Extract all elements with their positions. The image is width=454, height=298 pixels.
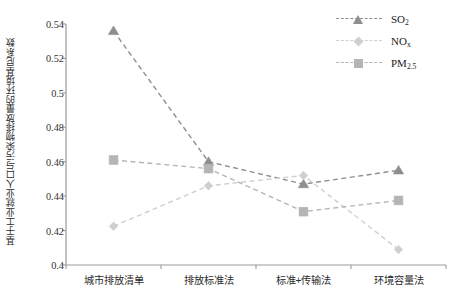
legend-marker-square-icon	[353, 58, 363, 68]
data-point	[109, 156, 118, 165]
data-point	[299, 207, 308, 216]
y-axis-tick: 0.5	[51, 87, 64, 98]
legend-marker-shape	[353, 15, 363, 24]
x-axis-tick: 城市排放清单	[84, 272, 144, 287]
legend-key	[336, 35, 382, 47]
legend-label-subscript: 2.5	[407, 62, 417, 71]
chart-legend: SO2NOxPM2.5	[336, 8, 448, 74]
y-axis-tick: 0.54	[46, 19, 64, 30]
legend-label: PM2.5	[382, 57, 416, 69]
series-NOx	[109, 171, 403, 254]
y-axis-label: 基于工业就业人口与污染物排放量的环境基尼系数	[4, 38, 18, 245]
legend-marker-shape	[354, 59, 363, 68]
data-point	[299, 171, 308, 180]
y-axis-tick-labels: 0.40.420.440.460.480.50.520.54	[22, 0, 64, 298]
data-point	[394, 196, 403, 205]
y-axis-tick: 0.46	[46, 156, 64, 167]
legend-label-subscript: x	[407, 40, 411, 49]
y-axis-tick: 0.48	[46, 122, 64, 133]
data-point	[108, 26, 118, 35]
legend-label-subscript: 2	[405, 18, 409, 27]
legend-label-main: PM	[391, 57, 407, 69]
y-axis-tick: 0.44	[46, 191, 64, 202]
x-axis-tick: 排放标准法	[184, 272, 234, 287]
legend-item-SO2[interactable]: SO2	[336, 8, 448, 30]
legend-marker-triangle-icon	[353, 14, 363, 24]
data-point	[393, 165, 403, 174]
legend-label: SO2	[382, 13, 409, 25]
legend-marker-shape	[353, 36, 363, 46]
data-point	[204, 182, 213, 191]
legend-item-PM2.5[interactable]: PM2.5	[336, 52, 448, 74]
legend-marker-diamond-icon	[353, 36, 363, 46]
data-point	[109, 222, 118, 231]
legend-key	[336, 57, 382, 69]
legend-item-NOx[interactable]: NOx	[336, 30, 448, 52]
legend-key	[336, 13, 382, 25]
legend-label-main: NO	[391, 35, 407, 47]
y-axis-tick: 0.42	[46, 225, 64, 236]
series-PM2.5	[109, 156, 403, 216]
y-axis-label-container: 基于工业就业人口与污染物排放量的环境基尼系数	[0, 0, 22, 282]
x-axis-tick: 环境容量法	[374, 272, 424, 287]
x-axis-tick: 标准+传输法	[276, 272, 332, 287]
y-axis-tick: 0.52	[46, 53, 64, 64]
y-axis-tick: 0.4	[51, 260, 64, 271]
legend-label-main: SO	[391, 13, 405, 25]
line-chart: 基于工业就业人口与污染物排放量的环境基尼系数 0.40.420.440.460.…	[0, 0, 454, 298]
legend-label: NOx	[382, 35, 411, 47]
data-point	[204, 164, 213, 173]
